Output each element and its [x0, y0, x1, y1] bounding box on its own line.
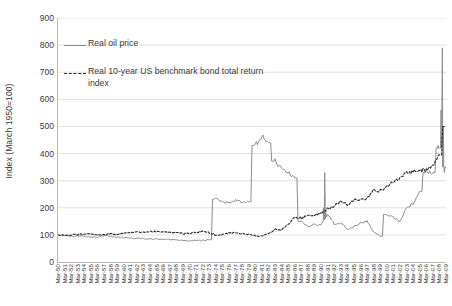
- y-axis-tick-label: 0: [22, 258, 54, 267]
- y-axis-tick-label: 600: [22, 95, 54, 104]
- legend-label-oil: Real oil price: [88, 38, 138, 50]
- y-axis-title-label: Index (March 1950=100): [4, 83, 14, 178]
- y-axis-tick-label: 300: [22, 176, 54, 185]
- legend-item-bond: Real 10-year US benchmark bond total ret…: [64, 66, 314, 89]
- y-axis-tick-label: 500: [22, 122, 54, 131]
- y-axis-tick-label: 900: [22, 14, 54, 23]
- y-axis-tick-label: 400: [22, 149, 54, 158]
- y-axis-tick-label: 100: [22, 231, 54, 240]
- legend-item-oil: Real oil price: [64, 38, 314, 50]
- y-axis-tick-label: 800: [22, 41, 54, 50]
- y-axis-tick-label: 200: [22, 204, 54, 213]
- solid-line-swatch-icon: [64, 41, 86, 50]
- dashed-line-swatch-icon: [64, 69, 86, 78]
- y-axis-tick-labels: 0100200300400500600700800900: [18, 0, 54, 306]
- oil-price-bond-index-chart: Index (March 1950=100) 01002003004005006…: [0, 0, 452, 306]
- y-axis-title: Index (March 1950=100): [0, 0, 18, 262]
- series-line-bond: [58, 126, 446, 236]
- legend: Real oil price Real 10-year US benchmark…: [64, 38, 314, 105]
- x-axis-tick-labels: Mar-50Mar-51Mar-52Mar-53Mar-54Mar-55Mar-…: [57, 264, 445, 306]
- x-axis-tick-label: Mar-09: [443, 264, 450, 304]
- y-axis-tick-label: 700: [22, 68, 54, 77]
- legend-label-bond: Real 10-year US benchmark bond total ret…: [88, 66, 278, 89]
